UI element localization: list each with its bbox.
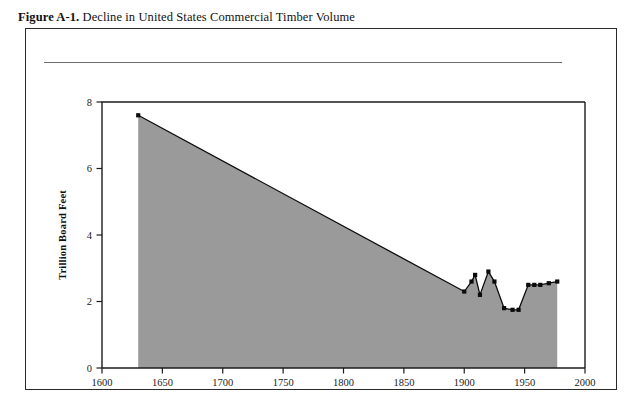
data-point-marker (492, 279, 496, 283)
figure-number: Figure A-1. (18, 10, 79, 24)
data-point-marker (555, 279, 559, 283)
y-axis-ticks: 02468 (87, 97, 102, 374)
x-axis-tick-label: 2000 (575, 377, 596, 388)
x-axis-tick-label: 1850 (393, 377, 414, 388)
x-axis-tick-label: 1750 (273, 377, 294, 388)
area-path (138, 115, 557, 368)
x-axis-tick-label: 1600 (92, 377, 113, 388)
data-point-marker (486, 269, 490, 273)
y-axis-tick-label: 8 (87, 97, 92, 108)
data-point-marker (526, 283, 530, 287)
data-point-marker (532, 283, 536, 287)
x-axis-tick-label: 1800 (333, 377, 354, 388)
y-axis-tick-label: 6 (87, 163, 92, 174)
figure-frame: 160016501700175018001850190019502000 024… (25, 28, 617, 390)
y-axis-label: Trillion Board Feet (57, 190, 68, 280)
x-axis-tick-label: 1700 (212, 377, 233, 388)
data-point-marker (538, 283, 542, 287)
y-axis-tick-label: 4 (87, 230, 93, 241)
y-axis-label-group: Trillion Board Feet (57, 190, 68, 280)
x-axis-ticks: 160016501700175018001850190019502000 (92, 368, 596, 388)
x-axis-tick-label: 1900 (454, 377, 475, 388)
data-point-marker (547, 281, 551, 285)
data-point-marker (502, 306, 506, 310)
data-point-marker (516, 308, 520, 312)
data-point-marker (510, 308, 514, 312)
figure-caption-text: Decline in United States Commercial Timb… (79, 10, 355, 24)
data-point-marker (478, 293, 482, 297)
y-axis-tick-label: 2 (87, 296, 92, 307)
figure-caption: Figure A-1. Decline in United States Com… (18, 10, 355, 25)
timber-volume-area-chart: 160016501700175018001850190019502000 024… (26, 29, 618, 391)
data-point-marker (473, 273, 477, 277)
data-point-marker (462, 289, 466, 293)
area-fill-region (138, 115, 557, 368)
y-axis-tick-label: 0 (87, 363, 92, 374)
chart-plot-area: 160016501700175018001850190019502000 024… (26, 29, 618, 391)
data-point-marker (136, 113, 140, 117)
x-axis-tick-label: 1950 (514, 377, 535, 388)
data-point-marker (469, 279, 473, 283)
x-axis-tick-label: 1650 (152, 377, 173, 388)
